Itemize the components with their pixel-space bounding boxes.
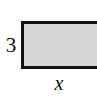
rectangle-shape (21, 21, 97, 69)
geometry-figure: 3 x (0, 0, 97, 104)
height-label: 3 (3, 33, 19, 57)
width-label: x (48, 72, 70, 94)
